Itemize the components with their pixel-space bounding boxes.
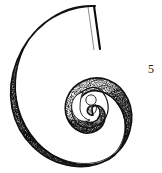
figure-plate: 5: [0, 0, 162, 173]
inner-whorl: [59, 78, 124, 149]
figure-number-label: 5: [144, 61, 158, 77]
ammonoid-shell-illustration: [0, 0, 162, 173]
